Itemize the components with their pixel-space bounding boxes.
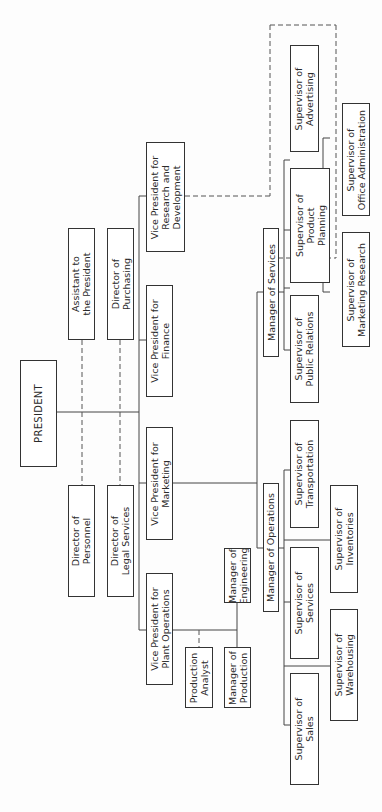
vp-plant-operations-box: Vice President for Plant Operations [146, 573, 173, 685]
supervisor-marketing-research-box: Supervisor of Marketing Research [342, 232, 370, 347]
director-purchasing-box: Director of Purchasing [107, 228, 134, 340]
director-legal-box: Director of Legal Services [107, 485, 134, 597]
org-chart: PRESIDENT Assistant to the President Dir… [0, 0, 382, 812]
manager-production-box: Manager of Production [224, 647, 251, 708]
vp-rnd-box: Vice President for Research and Developm… [146, 142, 185, 252]
supervisor-product-planning-box: Supervisor of Product Planning [290, 168, 330, 283]
supervisor-office-admin-box: Supervisor of Office Administration [342, 103, 370, 216]
supervisor-warehousing-box: Supervisor of Warehousing [330, 609, 358, 721]
supervisor-advertising-box: Supervisor of Advertising [290, 45, 319, 152]
director-personnel-box: Director of Personnel [68, 485, 95, 597]
manager-engineering-box: Manager of Engineering [224, 548, 251, 603]
vp-marketing-box: Vice President for Marketing [146, 427, 173, 540]
supervisor-inventories-box: Supervisor of Inventories [330, 485, 358, 593]
production-analyst-box: Production Analyst [185, 647, 213, 708]
president-box: PRESIDENT [20, 360, 57, 467]
supervisor-transportation-box: Supervisor of Transportation [290, 420, 319, 528]
supervisor-sales-box: Supervisor of Sales [290, 673, 319, 785]
vp-finance-box: Vice President for Finance [146, 285, 173, 397]
manager-services-box: Manager of Services [263, 228, 279, 357]
manager-operations-box: Manager of Operations [263, 483, 279, 612]
assistant-to-president-box: Assistant to the President [68, 228, 95, 340]
supervisor-public-relations-box: Supervisor of Public Relations [290, 295, 319, 403]
supervisor-services-box: Supervisor of Services [290, 547, 319, 659]
